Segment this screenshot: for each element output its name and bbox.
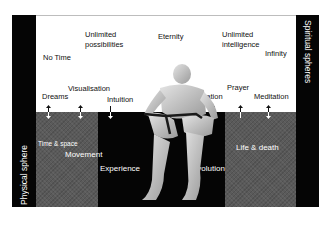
physical-term: Time & space — [38, 139, 78, 148]
arrow-down-icon — [108, 105, 113, 119]
physical-term: Movement — [65, 150, 102, 159]
textured-panel-right — [225, 112, 296, 207]
spiritual-term: Meditation — [254, 92, 289, 101]
spiritual-term: Unlimited — [222, 30, 253, 39]
arrow-bidirectional-icon — [266, 105, 271, 119]
spiritual-term: possibilities — [85, 40, 123, 49]
spiritual-spheres-label: Spiritual spheres — [303, 20, 313, 83]
arrow-bidirectional-icon — [78, 105, 83, 119]
textured-panel-left — [36, 112, 98, 207]
seated-figure-icon — [130, 62, 220, 207]
arrow-up-icon — [238, 105, 243, 119]
spiritual-term: No Time — [43, 53, 71, 62]
spiritual-term: intelligence — [222, 40, 260, 49]
spiritual-term: Eternity — [158, 32, 183, 41]
spiritual-term: Dreams — [42, 92, 68, 101]
spiritual-term: Infinity — [265, 49, 287, 58]
physical-sphere-label: Physical sphere — [19, 145, 29, 205]
physical-term: Life & death — [236, 143, 279, 152]
spiritual-term: Unlimited — [85, 30, 116, 39]
arrow-bidirectional-icon — [46, 105, 51, 119]
spiritual-term: Prayer — [227, 83, 249, 92]
spiritual-term: Visualisation — [68, 84, 110, 93]
